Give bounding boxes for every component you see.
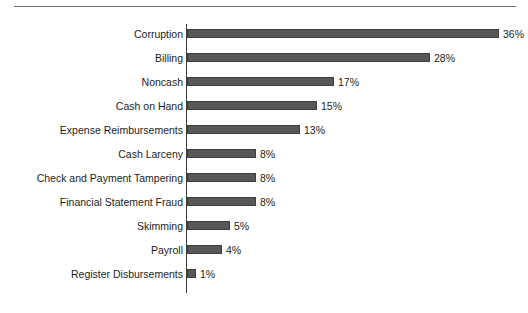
bar-track: 4%	[187, 238, 528, 262]
bar-track: 13%	[187, 118, 528, 142]
bar-track: 36%	[187, 22, 528, 46]
bar	[187, 149, 256, 158]
bar	[187, 77, 334, 86]
category-label: Corruption	[134, 22, 183, 46]
bar	[187, 125, 300, 134]
category-label: Cash Larceny	[118, 142, 183, 166]
horizontal-bar-chart: Corruption 36% Billing 28% Noncash 17% C…	[0, 0, 528, 313]
bar-track: 8%	[187, 190, 528, 214]
plot-area: Corruption 36% Billing 28% Noncash 17% C…	[0, 22, 528, 294]
bar-row: Billing 28%	[0, 46, 528, 70]
bar-value-label: 8%	[260, 166, 275, 190]
bar-track: 8%	[187, 166, 528, 190]
chart-title	[0, 0, 528, 3]
bar-row: Noncash 17%	[0, 70, 528, 94]
bar-value-label: 5%	[234, 214, 249, 238]
bar-value-label: 4%	[226, 238, 241, 262]
bar-track: 1%	[187, 262, 528, 286]
bar-value-label: 15%	[321, 94, 342, 118]
bar	[187, 197, 256, 206]
category-label: Skimming	[137, 214, 183, 238]
bar-row: Financial Statement Fraud 8%	[0, 190, 528, 214]
category-label: Expense Reimbursements	[60, 118, 183, 142]
bar-row: Register Disbursements 1%	[0, 262, 528, 286]
bar	[187, 53, 430, 62]
category-label: Cash on Hand	[116, 94, 183, 118]
bar	[187, 269, 196, 278]
category-label: Noncash	[142, 70, 183, 94]
bar-value-label: 1%	[200, 262, 215, 286]
bar-track: 8%	[187, 142, 528, 166]
bar-row: Expense Reimbursements 13%	[0, 118, 528, 142]
bar	[187, 173, 256, 182]
bar-value-label: 8%	[260, 190, 275, 214]
bar	[187, 101, 317, 110]
bar-value-label: 28%	[434, 46, 455, 70]
category-label: Financial Statement Fraud	[60, 190, 183, 214]
bar-value-label: 36%	[503, 22, 524, 46]
bar	[187, 29, 499, 38]
bar-value-label: 8%	[260, 142, 275, 166]
top-divider-rule	[14, 6, 516, 7]
bar-value-label: 17%	[338, 70, 359, 94]
bar-row: Check and Payment Tampering 8%	[0, 166, 528, 190]
bar	[187, 221, 230, 230]
bar-value-label: 13%	[304, 118, 325, 142]
bar-row: Cash Larceny 8%	[0, 142, 528, 166]
bar-track: 15%	[187, 94, 528, 118]
bar-row: Cash on Hand 15%	[0, 94, 528, 118]
bar	[187, 245, 222, 254]
category-label: Check and Payment Tampering	[37, 166, 183, 190]
bar-row: Payroll 4%	[0, 238, 528, 262]
bar-row: Corruption 36%	[0, 22, 528, 46]
bar-track: 28%	[187, 46, 528, 70]
bar-row: Skimming 5%	[0, 214, 528, 238]
category-label: Register Disbursements	[71, 262, 183, 286]
bar-track: 5%	[187, 214, 528, 238]
bar-track: 17%	[187, 70, 528, 94]
category-label: Payroll	[151, 238, 183, 262]
category-label: Billing	[155, 46, 183, 70]
